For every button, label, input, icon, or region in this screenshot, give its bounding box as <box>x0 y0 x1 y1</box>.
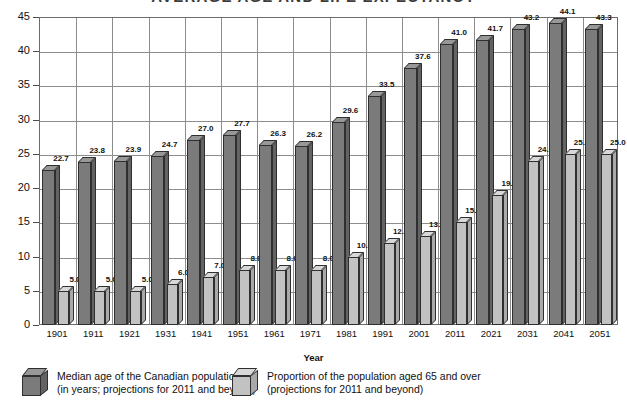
bar-side-face <box>467 217 472 325</box>
y-axis-tick-mark <box>33 325 39 326</box>
bar <box>528 156 544 325</box>
dark-cube-icon <box>22 366 48 396</box>
bar-front-face <box>151 156 164 325</box>
y-axis-tick-label: 25 <box>4 148 30 159</box>
bar-side-face <box>105 286 110 325</box>
bar-front-face <box>585 29 598 325</box>
bar <box>311 265 327 325</box>
bar-value-label: 44.1 <box>556 7 580 16</box>
x-axis-tick-label: 2051 <box>582 328 618 339</box>
x-axis-tick-label: 1971 <box>292 328 328 339</box>
x-axis-tick-label: 2031 <box>509 328 545 339</box>
bar-front-face <box>384 243 395 325</box>
y-axis-tick-label: 45 <box>4 11 30 22</box>
x-axis-tick-label: 2041 <box>546 328 582 339</box>
bar-side-face <box>322 265 327 325</box>
bar-value-label: 27.0 <box>194 124 218 133</box>
y-axis-tick-label: 35 <box>4 79 30 90</box>
bar-side-face <box>612 149 617 325</box>
light-cube-icon <box>232 366 258 396</box>
legend-line-1: Median age of the Canadian population <box>57 370 256 383</box>
bar-front-face <box>404 68 417 325</box>
bar-side-face <box>214 272 219 325</box>
bar-side-face <box>539 156 544 325</box>
legend-item-proportion-65-and-over: Proportion of the population aged 65 and… <box>232 366 481 396</box>
y-axis-tick-label: 40 <box>4 45 30 56</box>
bar-value-label: 43.2 <box>519 13 543 22</box>
legend-line-1: Proportion of the population aged 65 and… <box>267 370 481 383</box>
x-axis-tick-label: 1911 <box>75 328 111 339</box>
bar-value-label: 24.7 <box>158 140 182 149</box>
bar-front-face <box>565 154 576 325</box>
bar-front-face <box>440 44 453 325</box>
x-axis-tick-label: 2021 <box>473 328 509 339</box>
bar-side-face <box>503 190 508 325</box>
bar-side-face <box>395 238 400 325</box>
bar-front-face <box>42 170 55 325</box>
bar <box>167 279 183 325</box>
bar-value-label: 27.7 <box>230 119 254 128</box>
bar-value-label: 43.3 <box>592 13 616 22</box>
bar-front-face <box>275 270 286 325</box>
bar <box>456 217 472 325</box>
bar <box>601 149 617 325</box>
x-axis-title: Year <box>0 352 627 363</box>
bar-value-label: 26.2 <box>302 130 326 139</box>
bar-front-face <box>167 284 178 325</box>
bar <box>565 149 581 325</box>
bar-front-face <box>549 23 562 325</box>
y-axis-tick-label: 20 <box>4 182 30 193</box>
bar-side-face <box>141 286 146 325</box>
x-axis-tick-label: 1921 <box>111 328 147 339</box>
x-axis-tick-label: 1901 <box>39 328 75 339</box>
bar-side-face <box>431 231 436 325</box>
bar-front-face <box>348 257 359 325</box>
bar <box>348 252 364 325</box>
bar-front-face <box>187 140 200 325</box>
y-axis-tick-label: 10 <box>4 251 30 262</box>
bar <box>492 190 508 325</box>
bar <box>94 286 110 325</box>
bar-value-label: 22.7 <box>49 154 73 163</box>
bar-front-face <box>223 135 236 325</box>
bar-front-face <box>58 291 69 325</box>
legend-item-label: Median age of the Canadian population (i… <box>57 366 256 396</box>
y-axis-tick-label: 0 <box>4 319 30 330</box>
legend-item-median-age: Median age of the Canadian population (i… <box>22 366 256 396</box>
bar-front-face <box>130 291 141 325</box>
bar-value-label: 41.0 <box>447 28 471 37</box>
x-axis-tick-label: 2001 <box>401 328 437 339</box>
bar-value-label: 25.0 <box>606 138 627 147</box>
bar-value-label: 41.7 <box>483 24 507 33</box>
bar <box>239 265 255 325</box>
legend-line-2: (in years; projections for 2011 and beyo… <box>57 383 256 396</box>
x-axis-tick-label: 1951 <box>220 328 256 339</box>
legend-item-label: Proportion of the population aged 65 and… <box>267 366 481 396</box>
x-axis-tick-label: 1961 <box>256 328 292 339</box>
bar-front-face <box>456 222 467 325</box>
bar-side-face <box>359 252 364 325</box>
bar <box>130 286 146 325</box>
x-axis: 1901191119211931194119511961197119811991… <box>39 328 618 344</box>
bar-front-face <box>295 146 308 325</box>
x-axis-tick-label: 1941 <box>184 328 220 339</box>
bar-side-face <box>178 279 183 325</box>
y-axis-tick-label: 15 <box>4 216 30 227</box>
bar-front-face <box>528 161 539 325</box>
bar-front-face <box>114 161 127 325</box>
bar <box>275 265 291 325</box>
bar-value-label: 37.6 <box>411 52 435 61</box>
bar-front-face <box>94 291 105 325</box>
bar-front-face <box>420 236 431 325</box>
bar-value-label: 29.6 <box>339 106 363 115</box>
bar-value-label: 26.3 <box>266 129 290 138</box>
x-axis-tick-label: 1931 <box>148 328 184 339</box>
bar-front-face <box>332 122 345 325</box>
bar-value-label: 23.9 <box>121 145 145 154</box>
bar <box>420 231 436 325</box>
bar-side-face <box>576 149 581 325</box>
x-axis-tick-label: 1981 <box>329 328 365 339</box>
x-axis-tick-label: 1991 <box>365 328 401 339</box>
bar <box>203 272 219 325</box>
bar-front-face <box>78 162 91 325</box>
